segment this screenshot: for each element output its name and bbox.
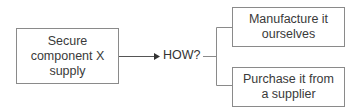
arrow-head-icon (154, 53, 160, 60)
option-2-line-1: Purchase it from (243, 72, 334, 87)
option-node-manufacture: Manufacture it ourselves (232, 7, 345, 47)
option-2-line-2: a supplier (243, 87, 334, 102)
how-label: HOW? (163, 48, 201, 62)
option-2-label: Purchase it from a supplier (243, 72, 334, 102)
option-node-purchase: Purchase it from a supplier (232, 67, 345, 107)
option-1-line-2: ourselves (249, 27, 328, 42)
option-1-label: Manufacture it ourselves (249, 12, 328, 42)
option-1-line-1: Manufacture it (249, 12, 328, 27)
